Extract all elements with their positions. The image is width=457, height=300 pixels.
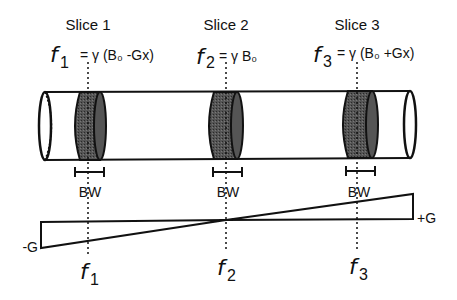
svg-text:1: 1 <box>90 271 99 288</box>
svg-text:3: 3 <box>323 53 332 70</box>
slice-2-title: Slice 2 <box>203 16 248 33</box>
slice-1-disk <box>75 92 106 160</box>
bottom-f2-label: f 2 <box>217 255 236 284</box>
bw-bracket-1 <box>75 167 104 177</box>
gradient-plot <box>41 194 413 248</box>
negative-gradient-triangle <box>41 220 226 248</box>
bottom-f1-label: f 1 <box>80 259 99 288</box>
bw-label-1: BW <box>79 184 102 200</box>
svg-text:= γ B₀: = γ B₀ <box>219 48 257 64</box>
slice-3-equation: f 3 = γ (B₀ +Gx) <box>313 42 414 70</box>
svg-text:= γ (B₀ -Gx): = γ (B₀ -Gx) <box>80 47 154 63</box>
bottom-f3-label: f 3 <box>349 254 368 283</box>
slice-2-equation: f 2 = γ B₀ <box>196 44 257 71</box>
slice-3-disk <box>343 91 378 158</box>
bw-bracket-2 <box>213 167 242 177</box>
svg-text:3: 3 <box>359 266 368 283</box>
positive-gradient-triangle <box>226 194 413 220</box>
bw-bracket-3 <box>346 166 375 176</box>
cylinder-left-end <box>39 92 51 160</box>
svg-text:2: 2 <box>206 54 215 71</box>
negative-gradient-label: -G <box>22 239 38 255</box>
slice-1-title: Slice 1 <box>65 16 110 33</box>
slice-1-equation: f 1 = γ (B₀ -Gx) <box>50 42 154 71</box>
bw-label-2: BW <box>217 184 240 200</box>
cylinder-right-end <box>404 91 416 158</box>
svg-text:= γ (B₀ +Gx): = γ (B₀ +Gx) <box>337 45 414 61</box>
slice-3-title: Slice 3 <box>334 16 379 33</box>
slice-selection-diagram: Slice 1 Slice 2 Slice 3 f 1 = γ (B₀ -Gx)… <box>0 0 457 300</box>
svg-text:2: 2 <box>227 267 236 284</box>
bw-label-3: BW <box>348 184 371 200</box>
positive-gradient-label: +G <box>417 210 436 226</box>
svg-text:1: 1 <box>60 54 69 71</box>
